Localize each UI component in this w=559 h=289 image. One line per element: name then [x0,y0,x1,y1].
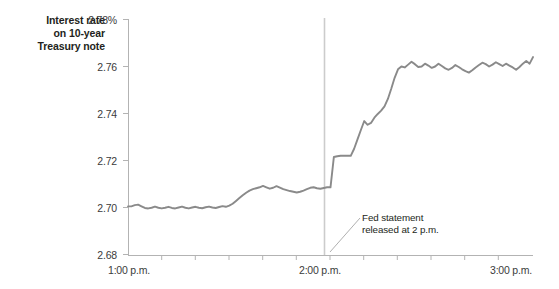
annotation-leader-line [330,218,360,252]
chart-figure: Interest rate on 10-year Treasury note 2… [0,0,559,289]
interest-rate-series [128,57,533,208]
axis-lines [128,19,533,256]
plot-area [0,0,559,289]
y-axis-ticks [123,20,128,255]
